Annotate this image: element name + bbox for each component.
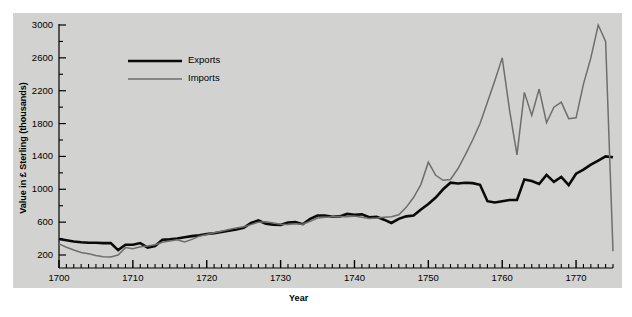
y-tick-label: 3000 [19,19,53,30]
x-tick-label: 1730 [261,272,301,283]
x-axis [59,260,613,268]
x-tick-label: 1750 [408,272,448,283]
y-tick-label: 2600 [19,52,53,63]
figure-container: Value in £ Sterling (thousands) Year 200… [0,0,632,317]
y-tick-label: 200 [19,249,53,260]
series-line-exports [59,156,613,250]
x-tick-label: 1740 [334,272,374,283]
legend [128,61,182,79]
y-tick-label: 1800 [19,118,53,129]
x-tick-label: 1710 [113,272,153,283]
legend-label-exports: Exports [188,54,220,65]
x-tick-label: 1720 [187,272,227,283]
y-tick-label: 1400 [19,150,53,161]
y-axis [59,24,66,268]
legend-label-imports: Imports [188,72,220,83]
x-tick-label: 1770 [556,272,596,283]
x-tick-label: 1700 [39,272,79,283]
y-tick-label: 1000 [19,183,53,194]
y-tick-label: 600 [19,216,53,227]
chart-plot [0,0,632,317]
y-tick-label: 2200 [19,85,53,96]
x-tick-label: 1760 [482,272,522,283]
